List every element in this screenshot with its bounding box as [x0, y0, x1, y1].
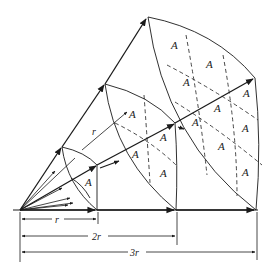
dimension-label-3r: 3r [129, 247, 139, 258]
ray-label-r: r [92, 126, 96, 137]
svg-text:A: A [159, 167, 167, 179]
svg-text:A: A [241, 122, 249, 134]
svg-text:A: A [241, 166, 249, 178]
svg-text:A: A [128, 108, 136, 120]
svg-text:A: A [182, 76, 190, 88]
svg-text:A: A [217, 140, 225, 152]
svg-text:A: A [205, 58, 213, 70]
svg-text:A: A [131, 148, 139, 160]
svg-text:A: A [159, 131, 167, 143]
area-label-r: A [84, 176, 92, 188]
area-labels: A A A A A A A A A A A A A A [84, 39, 250, 188]
upper-ray [20, 19, 146, 210]
dimension-label-2r: 2r [92, 231, 101, 242]
inverse-square-diagram: A A A A A A A A A A A A A A r r 2r 3r [0, 0, 273, 277]
svg-text:A: A [170, 39, 178, 51]
svg-text:A: A [191, 116, 199, 128]
svg-text:A: A [213, 102, 221, 114]
svg-text:A: A [242, 87, 250, 99]
dimension-label-r: r [55, 214, 59, 225]
